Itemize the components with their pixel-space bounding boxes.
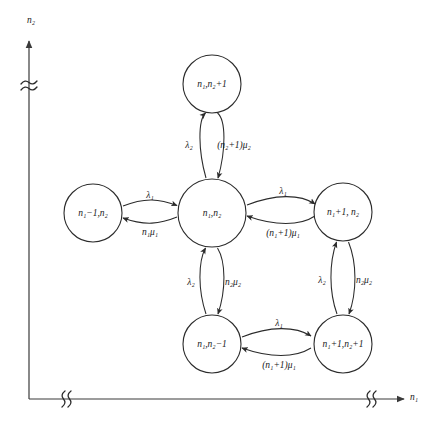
x-axis-label: n₁ xyxy=(410,392,418,402)
edge-right-to-bottomright-arrow xyxy=(349,242,355,314)
edge-label-top-to-center: (n₂+1)μ₂ xyxy=(217,140,251,151)
edge-left-to-center-arrow xyxy=(123,200,177,206)
edge-center-to-top-arrow xyxy=(200,113,206,178)
node-label-bottom: n₁,n₂−1 xyxy=(197,339,227,349)
edge-label-center-to-top: λ₂ xyxy=(184,140,193,150)
node-right[interactable]: n₁+1, n₂ xyxy=(314,183,372,241)
edge-label-bottom-to-center: λ₂ xyxy=(186,277,195,287)
edge-label-center-to-bottom: n₂μ₂ xyxy=(225,277,242,287)
edge-label-left-to-center: λ₁ xyxy=(145,190,153,200)
diagram-svg-canvas: n₂ n₁ λ₂ (n₂+1)μ₂ λ₁ n₁μ₁ λ₁ (n₁+1)μ₁ xyxy=(0,0,436,426)
node-label-bottomright: n₁+1,n₂+1 xyxy=(323,339,364,349)
node-bottomright[interactable]: n₁+1,n₂+1 xyxy=(314,315,372,373)
node-center[interactable]: n₁,n₂ xyxy=(178,179,246,247)
node-label-right: n₁+1, n₂ xyxy=(327,207,360,217)
edge-bottomright-to-right-arrow xyxy=(331,242,337,314)
edge-center-to-left-arrow xyxy=(123,217,177,223)
node-label-center: n₁,n₂ xyxy=(203,208,222,218)
edge-bottom-to-bottomright-arrow xyxy=(242,329,311,337)
edge-left-center: λ₁ n₁μ₁ xyxy=(123,190,177,237)
edge-center-right: λ₁ (n₁+1)μ₁ xyxy=(247,186,315,239)
edge-bottomright-to-bottom-arrow xyxy=(242,348,311,356)
edge-center-top: λ₂ (n₂+1)μ₂ xyxy=(184,113,251,178)
edge-right-to-center-arrow xyxy=(247,216,315,224)
edge-center-to-bottom-arrow xyxy=(218,248,224,314)
node-left[interactable]: n₁−1,n₂ xyxy=(64,184,122,242)
edge-bottomright-right: λ₂ n₂μ₂ xyxy=(317,242,372,314)
edge-bottom-center: λ₂ n₂μ₂ xyxy=(186,248,241,314)
edge-label-bottomright-to-bottom: (n₁+1)μ₁ xyxy=(262,360,296,371)
edge-bottom-to-center-arrow xyxy=(200,248,206,314)
edge-label-center-to-right: λ₁ xyxy=(278,186,286,196)
node-top[interactable]: n₁,n₂+1 xyxy=(183,55,241,113)
edge-bottom-bottomright: λ₁ (n₁+1)μ₁ xyxy=(242,318,311,371)
edge-label-center-to-left: n₁μ₁ xyxy=(142,227,158,237)
edge-label-bottom-to-bottomright: λ₁ xyxy=(274,318,282,328)
edge-label-bottomright-to-right: λ₂ xyxy=(317,275,326,285)
y-axis-label: n₂ xyxy=(27,15,36,25)
node-bottom[interactable]: n₁,n₂−1 xyxy=(183,315,241,373)
node-label-left: n₁−1,n₂ xyxy=(78,208,108,218)
node-label-top: n₁,n₂+1 xyxy=(197,79,227,89)
state-transition-diagram: n₂ n₁ λ₂ (n₂+1)μ₂ λ₁ n₁μ₁ λ₁ (n₁+1)μ₁ xyxy=(0,0,436,426)
edge-label-right-to-center: (n₁+1)μ₁ xyxy=(266,228,300,239)
edge-center-to-right-arrow xyxy=(247,197,315,205)
edge-label-right-to-bottomright: n₂μ₂ xyxy=(356,275,373,285)
